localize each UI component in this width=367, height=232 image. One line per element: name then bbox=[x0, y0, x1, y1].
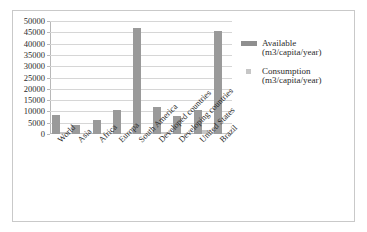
chart-legend: Available (m3/capita/year) Consumption (… bbox=[241, 39, 351, 95]
y-axis-tick-label: 0 bbox=[41, 130, 45, 139]
y-axis-tick-label: 25000 bbox=[24, 73, 45, 82]
y-axis-tick-label: 10000 bbox=[24, 107, 45, 116]
legend-unit-consumption: (m3/capita/year) bbox=[262, 76, 351, 85]
bar-group bbox=[50, 21, 70, 134]
bar-group bbox=[70, 21, 90, 134]
y-axis-tick-label: 45000 bbox=[24, 28, 45, 37]
y-axis-tick-label: 5000 bbox=[28, 118, 45, 127]
legend-swatch-available-icon bbox=[241, 41, 257, 46]
bar-available bbox=[93, 120, 101, 134]
bar-available bbox=[133, 28, 141, 134]
y-axis-tick-label: 15000 bbox=[24, 96, 45, 105]
legend-entry-available: Available (m3/capita/year) bbox=[241, 39, 351, 58]
bar-group bbox=[90, 21, 110, 134]
bar-group bbox=[111, 21, 131, 134]
y-axis-tick-label: 30000 bbox=[24, 62, 45, 71]
y-axis-tick-label: 20000 bbox=[24, 85, 45, 94]
legend-unit-available: (m3/capita/year) bbox=[262, 48, 351, 57]
legend-entry-consumption: Consumption (m3/capita/year) bbox=[241, 67, 351, 86]
y-axis-tick bbox=[47, 134, 50, 135]
y-axis-tick-label: 50000 bbox=[24, 17, 45, 26]
bar-group bbox=[131, 21, 151, 134]
legend-swatch-consumption-icon bbox=[246, 69, 251, 74]
y-axis-tick-label: 40000 bbox=[24, 39, 45, 48]
bar-available bbox=[52, 115, 60, 134]
y-axis-tick-label: 35000 bbox=[24, 51, 45, 60]
chart-figure: 0500010000150002000025000300003500040000… bbox=[12, 10, 355, 222]
